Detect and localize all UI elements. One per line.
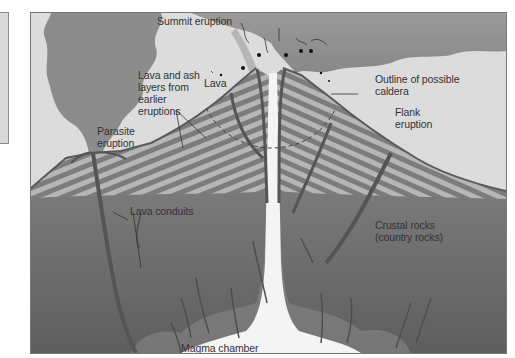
label-lava-ash-layers: Lava and ash layers from earlier eruptio…: [138, 69, 200, 117]
adjacent-panel-edge: [0, 12, 9, 144]
label-lava-conduits: Lava conduits: [130, 205, 194, 217]
label-lava: Lava: [204, 77, 226, 89]
volcano-diagram: Summit eruption Lava and ash layers from…: [30, 12, 507, 354]
volcano-illustration: [31, 13, 506, 353]
label-magma-chamber: Magma chamber: [181, 342, 258, 354]
label-flank-eruption: Flank eruption: [395, 106, 432, 130]
label-crustal-rocks: Crustal rocks (country rocks): [375, 219, 443, 243]
label-summit-eruption: Summit eruption: [157, 15, 232, 27]
label-outline-caldera: Outline of possible caldera: [375, 73, 459, 97]
label-parasite-eruption: Parasite eruption: [97, 125, 135, 149]
